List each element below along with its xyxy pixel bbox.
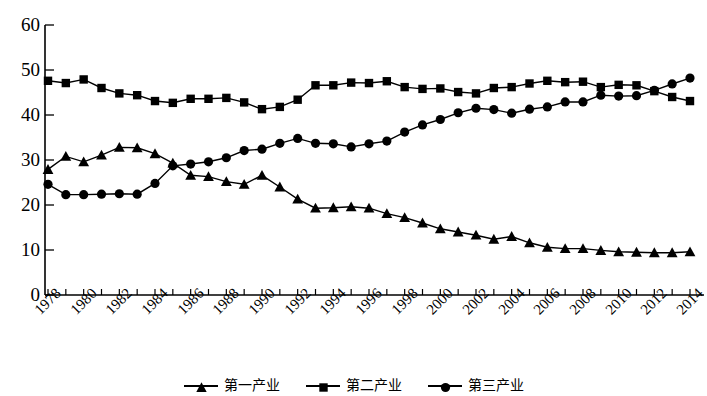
legend-label: 第二产业 [346,379,402,393]
circle-data-marker [240,146,249,155]
triangle-data-marker [292,194,303,204]
circle-data-marker [436,115,445,124]
circle-data-marker [507,109,516,118]
circle-data-marker [257,145,266,154]
circle-data-marker [650,86,659,95]
square-data-marker [561,78,569,86]
square-data-marker [329,81,337,89]
circle-marker-glyph [440,383,449,392]
square-data-marker [240,98,248,106]
triangle-data-marker [185,170,196,180]
circle-data-marker [61,190,70,199]
square-data-marker [383,77,391,85]
square-data-marker [543,77,551,85]
triangle-data-marker [506,231,517,241]
square-data-marker [418,85,426,93]
circle-data-marker [632,91,641,100]
square-data-marker [115,89,123,97]
square-data-marker [186,95,194,103]
triangle-data-marker [435,223,446,233]
square-data-marker [347,78,355,86]
square-data-marker [293,96,301,104]
square-data-marker [597,83,605,91]
legend-item-1[interactable]: 第一产业 [184,376,280,396]
circle-data-marker [561,97,570,106]
circle-data-marker [471,104,480,113]
square-data-marker [525,79,533,87]
circle-data-marker [186,159,195,168]
triangle-data-marker [150,148,161,158]
y-axis-tick-label: 50 [6,60,40,79]
square-data-marker [668,93,676,101]
chart-legend: 第一产业第二产业第三产业 [0,376,707,396]
circle-data-marker [150,179,159,188]
circle-data-marker [222,153,231,162]
circle-data-marker [97,190,106,199]
legend-label: 第一产业 [224,379,280,393]
square-data-marker [222,94,230,102]
circle-data-marker [347,142,356,151]
square-marker [306,379,340,393]
circle-data-marker [364,139,373,148]
circle-data-marker [382,137,391,146]
circle-marker [428,379,462,393]
series-line [48,147,690,252]
y-axis-tick-label: 20 [6,195,40,214]
square-data-marker [614,81,622,89]
circle-data-marker [204,157,213,166]
square-data-marker [79,75,87,83]
square-data-marker [686,97,694,105]
square-data-marker [97,84,105,92]
circle-data-marker [596,91,605,100]
square-data-marker [365,79,373,87]
square-data-marker [507,83,515,91]
line-chart-plot [0,0,707,396]
legend-item-2[interactable]: 第二产业 [306,376,402,396]
circle-data-marker [454,108,463,117]
square-data-marker [151,97,159,105]
square-data-marker [490,84,498,92]
triangle-marker-glyph [196,382,206,392]
triangle-data-marker [524,237,535,247]
triangle-marker [184,379,218,393]
legend-label: 第三产业 [468,379,524,393]
square-data-marker [133,91,141,99]
circle-data-marker [43,180,52,189]
series-line [48,78,690,195]
circle-data-marker [525,105,534,114]
circle-data-marker [668,79,677,88]
square-data-marker [632,81,640,89]
circle-data-marker [489,105,498,114]
square-data-marker [44,77,52,85]
y-axis-tick-label: 30 [6,150,40,169]
triangle-data-marker [60,151,71,161]
square-data-marker [472,89,480,97]
chart-container: 6050403020100 19781980198219841986198819… [0,0,707,396]
square-data-marker [62,79,70,87]
square-data-marker [169,99,177,107]
circle-data-marker [79,190,88,199]
series-1 [43,142,696,257]
triangle-data-marker [257,170,268,180]
circle-data-marker [543,102,552,111]
legend-item-3[interactable]: 第三产业 [428,376,524,396]
square-data-marker [400,83,408,91]
y-axis-tick-label: 10 [6,240,40,259]
circle-data-marker [614,92,623,101]
square-data-marker [276,103,284,111]
square-data-marker [579,78,587,86]
square-data-marker [258,105,266,113]
circle-data-marker [329,139,338,148]
triangle-data-marker [274,182,285,192]
square-data-marker [204,95,212,103]
circle-data-marker [133,190,142,199]
circle-data-marker [115,189,124,198]
y-axis-tick-label: 40 [6,105,40,124]
triangle-data-marker [96,150,107,160]
y-axis-tick-label: 60 [6,15,40,34]
square-marker-glyph [319,383,327,391]
circle-data-marker [685,74,694,83]
circle-data-marker [168,161,177,170]
circle-data-marker [578,97,587,106]
circle-data-marker [311,139,320,148]
